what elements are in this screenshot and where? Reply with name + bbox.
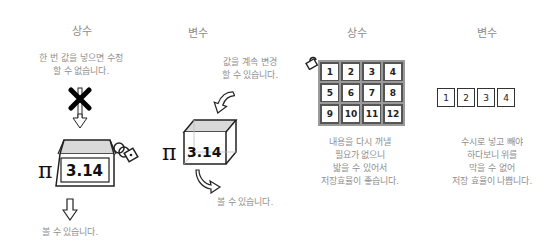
grid-cell: 8	[383, 83, 403, 103]
grid-cell: 2	[341, 62, 361, 82]
row-cell: 3	[477, 88, 495, 107]
panel2-title: 변수	[168, 24, 228, 40]
variable-row: 1 2 3 4	[437, 88, 517, 108]
panel1-title: 상수	[52, 22, 112, 38]
grid-cell: 5	[320, 83, 340, 103]
row-cell: 4	[497, 88, 515, 107]
grid-cell: 7	[362, 83, 382, 103]
panel3-title: 상수	[327, 24, 387, 40]
output-arrow-icon	[62, 198, 78, 222]
grid-cell: 9	[320, 104, 340, 124]
grid-cell: 3	[362, 62, 382, 82]
panel2-description: 값을 계속 변경 할 수 있습니다.	[195, 56, 305, 82]
grid-cell: 1	[320, 62, 340, 82]
panel4-title: 변수	[457, 24, 517, 40]
grid-cell: 12	[383, 104, 403, 124]
grid-cell: 6	[341, 83, 361, 103]
grid-cell: 11	[362, 104, 382, 124]
grid-cell: 4	[383, 62, 403, 82]
grid-cell: 10	[341, 104, 361, 124]
lock-icon	[305, 56, 319, 70]
constant-value: 3.14	[66, 162, 103, 180]
curved-output-arrow-icon	[195, 168, 225, 194]
curved-input-arrow-icon	[205, 86, 235, 116]
panel1-footer: 볼 수 있습니다.	[30, 226, 110, 239]
panel2-footer: 볼 수 있습니다.	[205, 196, 285, 209]
pi-symbol-variable: π	[162, 140, 176, 165]
constant-grid: 1 2 3 4 5 6 7 8 9 10 11 12	[318, 60, 406, 122]
panel1-description: 한 번 값을 넣으면 수정 할 수 없습니다.	[26, 52, 136, 78]
panel4-description: 수시로 넣고 빼야 하다보니 위를 막을 수 없어 저장 효율이 나쁩니다.	[432, 136, 552, 188]
pi-symbol: π	[38, 158, 52, 183]
blocked-input-arrow-icon	[68, 86, 92, 140]
variable-value: 3.14	[187, 144, 222, 160]
row-cell: 2	[457, 88, 475, 107]
row-cell: 1	[437, 88, 455, 107]
panel3-description: 내용을 다시 꺼낼 필요가 없으니 밟을 수 있어서 저장효율이 좋습니다.	[300, 136, 420, 188]
